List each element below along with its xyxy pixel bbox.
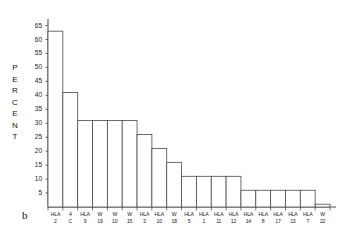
y-axis-tick-label: 15: [26, 161, 42, 168]
bar: [211, 176, 226, 207]
x-tick-gene: W: [167, 211, 182, 218]
x-tick-gene: 4: [63, 211, 78, 218]
x-tick-gene: HLA: [271, 211, 286, 218]
bar-chart-plot: [0, 0, 354, 244]
x-tick-gene: HLA: [78, 211, 93, 218]
x-tick-number: 7: [300, 218, 315, 225]
bar: [182, 176, 197, 207]
bar: [48, 31, 63, 207]
x-tick-number: 14: [241, 218, 256, 225]
x-axis-tick-label: HLA12: [226, 211, 241, 226]
x-tick-gene: HLA: [48, 211, 63, 218]
x-tick-gene: HLA: [285, 211, 300, 218]
x-tick-number: 1: [196, 218, 211, 225]
x-tick-number: 9: [78, 218, 93, 225]
y-axis-tick-label: 30: [26, 119, 42, 126]
x-axis-tick-label: HLA3: [137, 211, 152, 226]
x-tick-number: 8: [256, 218, 271, 225]
x-tick-number: 12: [226, 218, 241, 225]
x-axis-tick-label: W18: [167, 211, 182, 226]
bar: [122, 120, 137, 207]
x-tick-number: 15: [122, 218, 137, 225]
x-tick-gene: HLA: [211, 211, 226, 218]
x-tick-gene: HLA: [300, 211, 315, 218]
x-axis-tick-label: HLA11: [211, 211, 226, 226]
bar: [107, 120, 122, 207]
bar: [78, 120, 93, 207]
y-axis-tick-label: 20: [26, 147, 42, 154]
y-axis-tick-label: 35: [26, 105, 42, 112]
x-tick-gene: W: [107, 211, 122, 218]
bar: [196, 176, 211, 207]
x-tick-number: 10: [107, 218, 122, 225]
x-axis-tick-label: W22: [315, 211, 330, 226]
x-tick-number: 22: [315, 218, 330, 225]
x-axis-tick-label: HLA5: [182, 211, 197, 226]
x-tick-gene: HLA: [226, 211, 241, 218]
x-tick-gene: HLA: [256, 211, 271, 218]
x-axis-tick-label: HLA8: [256, 211, 271, 226]
x-axis-tick-label: W19: [93, 211, 108, 226]
bar: [271, 190, 286, 207]
y-axis-tick-label: 60: [26, 36, 42, 43]
x-axis-tick-label: HLA9: [78, 211, 93, 226]
x-tick-gene: W: [93, 211, 108, 218]
y-axis-tick-label: 50: [26, 63, 42, 70]
y-axis-tick-label: 55: [26, 49, 42, 56]
x-tick-number: C: [63, 218, 78, 225]
bar: [300, 190, 315, 207]
bar: [93, 120, 108, 207]
bar: [137, 134, 152, 207]
figure-panel: P E R C E N T b 510152025303540455055606…: [0, 0, 354, 244]
x-axis-tick-label: HLA1: [196, 211, 211, 226]
x-axis-tick-label: W10: [107, 211, 122, 226]
x-tick-gene: HLA: [137, 211, 152, 218]
x-tick-gene: HLA: [182, 211, 197, 218]
y-axis-tick-label: 40: [26, 91, 42, 98]
x-tick-number: 11: [211, 218, 226, 225]
y-axis-tick-label: 10: [26, 175, 42, 182]
x-axis-tick-label: W15: [122, 211, 137, 226]
y-axis-tick-label: 25: [26, 133, 42, 140]
x-tick-number: 3: [137, 218, 152, 225]
x-axis-tick-label: HLA2: [48, 211, 63, 226]
x-tick-number: 13: [285, 218, 300, 225]
bar: [256, 190, 271, 207]
x-tick-gene: HLA: [241, 211, 256, 218]
x-tick-number: 10: [152, 218, 167, 225]
x-tick-number: 5: [182, 218, 197, 225]
bar: [152, 148, 167, 207]
x-tick-number: 17: [271, 218, 286, 225]
x-axis-tick-label: HLA14: [241, 211, 256, 226]
bar: [63, 93, 78, 207]
x-axis-tick-label: HLA7: [300, 211, 315, 226]
x-tick-gene: HLA: [196, 211, 211, 218]
x-axis-tick-label: 4C: [63, 211, 78, 226]
bar: [226, 176, 241, 207]
x-axis-tick-label: HLA17: [271, 211, 286, 226]
x-tick-gene: W: [315, 211, 330, 218]
x-tick-number: 19: [93, 218, 108, 225]
bar: [167, 162, 182, 207]
y-axis-tick-label: 65: [26, 22, 42, 29]
x-tick-gene: W: [122, 211, 137, 218]
x-tick-number: 18: [167, 218, 182, 225]
y-axis-tick-label: 45: [26, 77, 42, 84]
bar: [285, 190, 300, 207]
x-tick-number: 2: [48, 218, 63, 225]
x-axis-tick-label: HLA10: [152, 211, 167, 226]
bar: [315, 204, 330, 207]
y-axis-tick-label: 5: [26, 189, 42, 196]
x-axis-tick-label: HLA13: [285, 211, 300, 226]
x-tick-gene: HLA: [152, 211, 167, 218]
bar: [241, 190, 256, 207]
